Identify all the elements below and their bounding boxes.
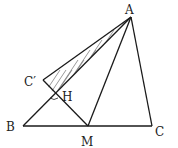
shaded-region [40,20,132,100]
label-A: A [124,3,134,17]
geometry-diagram: A B C M C′ H [0,0,178,148]
segment-AM [88,17,131,126]
label-B: B [6,120,15,134]
label-M: M [81,135,93,148]
segment-AC [131,17,152,126]
segment-AC-prime [43,17,131,80]
label-C: C [155,125,164,139]
label-H: H [62,90,72,104]
segment-AB [23,17,131,126]
label-C-prime: C′ [24,75,36,89]
